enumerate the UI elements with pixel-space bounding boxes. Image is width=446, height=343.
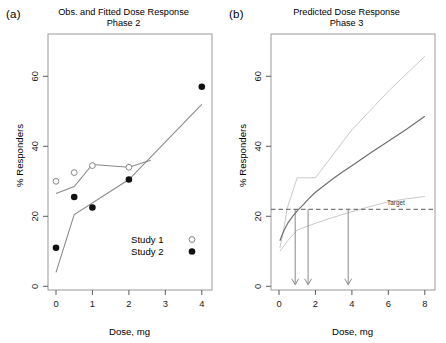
data-point (199, 84, 206, 91)
data-point (53, 178, 59, 184)
panel-a-xtick-4: 4 (199, 298, 204, 309)
panel-b-predicted-mean-line (280, 116, 425, 241)
panel-a-xtick-0: 0 (53, 298, 58, 309)
data-point (71, 194, 78, 201)
panel-a-plot-area: 0 20 40 60 0 1 2 3 4 (0, 0, 223, 343)
panel-a-frame (48, 34, 212, 290)
panel-b-ytick-60: 60 (252, 71, 263, 81)
dose-arrow (292, 209, 299, 284)
panel-b-label: (b) (229, 8, 244, 20)
data-point (90, 163, 96, 169)
panel-b-y-ticks: 0 20 40 60 (252, 71, 271, 289)
panel-b-xtick-0: 0 (276, 298, 281, 309)
panel-b-xtick-4: 4 (349, 298, 354, 309)
data-point (53, 245, 60, 252)
panel-b-xtick-6: 6 (386, 298, 391, 309)
panel-a: (a) Obs. and Fitted Dose ResponsePhase 2… (0, 0, 223, 343)
data-point (126, 176, 133, 183)
data-point (71, 170, 77, 176)
panel-a-legend: Study 1 Study 2 (131, 234, 195, 257)
panel-b-xtick-8: 8 (422, 298, 427, 309)
figure-dose-response: (a) Obs. and Fitted Dose ResponsePhase 2… (0, 0, 446, 343)
panel-b-x-axis-label: Dose, mg (263, 326, 442, 337)
panel-b-plot-area: 0 20 40 60 0 2 4 6 8 (223, 0, 446, 343)
panel-b-title: Predicted Dose ResponsePhase 3 (251, 7, 442, 29)
panel-b-upper-bound-line (280, 56, 425, 248)
panel-a-ytick-60: 60 (29, 71, 40, 81)
panel-a-y-axis-label: % Responders (14, 116, 25, 196)
dose-arrow (305, 209, 312, 284)
panel-a-x-ticks: 0 1 2 3 4 (53, 290, 204, 309)
panel-b-ytick-20: 20 (252, 211, 263, 221)
panel-a-ytick-40: 40 (29, 141, 40, 151)
legend-marker-filled-circle-icon (189, 248, 196, 255)
panel-a-study1-points (53, 163, 132, 185)
panel-b-x-ticks: 0 2 4 6 8 (276, 290, 427, 309)
panel-a-title: Obs. and Fitted Dose ResponsePhase 2 (28, 7, 219, 29)
panel-b-xtick-2: 2 (313, 298, 318, 309)
legend-label-study-1: Study 1 (131, 234, 164, 245)
dose-arrow (345, 209, 352, 284)
panel-a-y-ticks: 0 20 40 60 (29, 71, 48, 289)
panel-b-ytick-40: 40 (252, 141, 263, 151)
panel-a-xtick-1: 1 (90, 298, 95, 309)
panel-a-x-axis-label: Dose, mg (40, 326, 219, 337)
panel-a-xtick-2: 2 (126, 298, 131, 309)
panel-b-y-axis-label: % Responders (237, 116, 248, 196)
panel-b-target-label: Target (387, 199, 405, 207)
panel-a-study2-fitted-line (56, 104, 202, 272)
panel-a-xtick-3: 3 (163, 298, 168, 309)
panel-b: (b) Predicted Dose ResponsePhase 3 % Res… (223, 0, 446, 343)
legend-marker-open-circle-icon (189, 237, 195, 243)
panel-a-label: (a) (6, 8, 21, 20)
panel-b-ytick-0: 0 (252, 284, 263, 289)
data-point (89, 204, 96, 211)
panel-a-ytick-20: 20 (29, 211, 40, 221)
legend-label-study-2: Study 2 (131, 246, 164, 257)
data-point (126, 164, 132, 170)
panel-a-study1-fitted-line (56, 160, 151, 193)
panel-a-ytick-0: 0 (29, 284, 40, 289)
